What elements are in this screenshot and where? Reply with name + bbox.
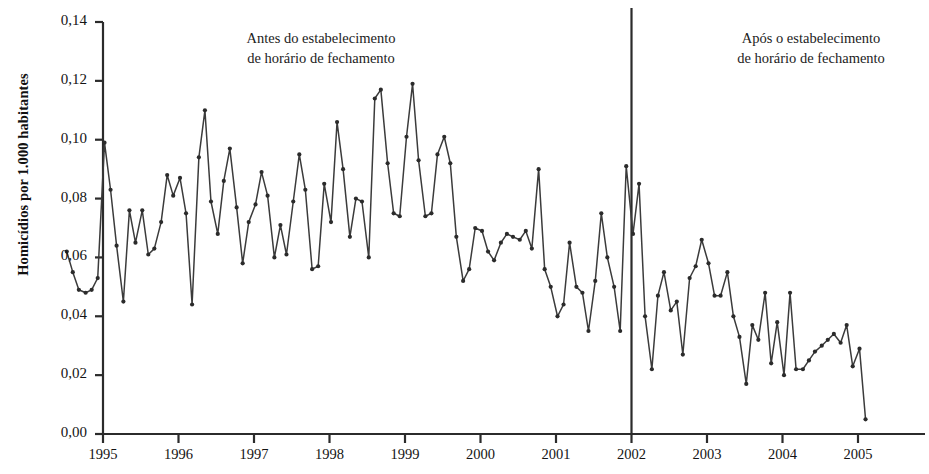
data-point [303,188,307,192]
data-point [329,220,333,224]
data-point [171,194,175,198]
data-point [284,252,288,256]
data-point [423,214,427,218]
data-point [392,211,396,215]
x-tick-label: 2000 [446,446,516,463]
data-point [480,229,484,233]
data-point [694,264,698,268]
data-point [788,291,792,295]
data-point [832,332,836,336]
x-tick-label: 2003 [672,446,742,463]
data-point [826,338,830,342]
data-point [348,235,352,239]
data-point [586,329,590,333]
data-point [561,302,565,306]
data-point [228,146,232,150]
data-point [769,361,773,365]
series-line [67,84,866,419]
data-point [599,211,603,215]
data-point [197,155,201,159]
chart-container: Homicídios por 1.000 habitantes Antes do… [0,0,929,474]
data-point [209,199,213,203]
y-tick-label: 0,10 [33,130,87,147]
data-point [593,279,597,283]
data-point [700,238,704,242]
data-point [322,182,326,186]
data-point [235,205,239,209]
data-point [612,285,616,289]
data-point [96,276,100,280]
data-point [190,302,194,306]
data-point [379,88,383,92]
x-tick-label: 2004 [748,446,818,463]
data-point [624,164,628,168]
data-point [820,344,824,348]
data-point [675,299,679,303]
data-point [851,364,855,368]
data-point [524,229,528,233]
data-point [718,294,722,298]
data-series-homicide-rate [65,82,868,422]
data-point [140,208,144,212]
y-tick-label: 0,04 [33,306,87,323]
data-point [530,247,534,251]
data-point [316,264,320,268]
data-point [650,367,654,371]
data-point [121,299,125,303]
data-point [737,335,741,339]
y-tick-label: 0,06 [33,247,87,264]
data-point [813,350,817,354]
data-point [794,367,798,371]
data-point [247,220,251,224]
data-point [605,255,609,259]
data-point [618,329,622,333]
data-point [801,367,805,371]
x-tick-label: 1995 [68,446,138,463]
data-point [454,235,458,239]
data-point [398,214,402,218]
data-point [863,417,867,421]
data-point [549,285,553,289]
data-point [386,161,390,165]
x-tick-label: 1998 [295,446,365,463]
x-tick-label: 2002 [597,446,667,463]
data-point [857,347,861,351]
data-point [555,314,559,318]
data-point [505,232,509,236]
data-point [461,279,465,283]
y-tick-label: 0,08 [33,189,87,206]
data-point [165,173,169,177]
x-tick-label: 2005 [823,446,893,463]
data-point [706,261,710,265]
data-point [335,120,339,124]
data-point [775,320,779,324]
data-point [537,167,541,171]
data-point [756,338,760,342]
axis-ticks [95,22,858,443]
plot-area [0,0,929,474]
data-point [435,152,439,156]
data-point [184,211,188,215]
data-point [404,135,408,139]
data-point [744,382,748,386]
data-point [253,202,257,206]
data-point [133,241,137,245]
data-point [102,141,106,145]
data-point [643,314,647,318]
data-point [492,258,496,262]
data-point [669,308,673,312]
data-point [360,199,364,203]
data-point [467,267,471,271]
data-point [77,288,81,292]
data-point [354,196,358,200]
data-point [511,235,515,239]
axis-lines [103,22,925,434]
data-point [90,288,94,292]
data-point [688,276,692,280]
data-point [373,96,377,100]
data-point [486,249,490,253]
data-point [656,294,660,298]
data-point [543,267,547,271]
x-tick-label: 2001 [521,446,591,463]
data-point [518,238,522,242]
